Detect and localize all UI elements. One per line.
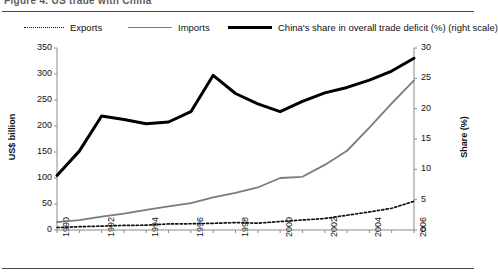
gray-line-key-icon — [128, 27, 172, 28]
chart-area: US$ billion Share (%) 050100150200250300… — [0, 36, 476, 272]
black-line-key-icon — [228, 26, 272, 29]
plot-svg — [0, 36, 476, 272]
legend-item-imports: Imports — [128, 19, 210, 35]
legend-item-share: China's share in overall trade deficit (… — [228, 19, 498, 35]
figure-caption: Figure 4. US trade with China — [4, 0, 304, 7]
series-line-share — [57, 58, 414, 175]
legend-item-exports: Exports — [24, 19, 102, 35]
legend-label-exports: Exports — [70, 22, 102, 33]
top-rule — [2, 11, 474, 12]
chart-legend: Exports Imports China's share in overall… — [0, 19, 476, 35]
series-line-imports — [57, 80, 414, 222]
series-line-exports — [57, 201, 414, 227]
legend-label-imports: Imports — [178, 22, 210, 33]
legend-label-share: China's share in overall trade deficit (… — [278, 22, 498, 33]
dotted-line-key-icon — [24, 27, 64, 28]
